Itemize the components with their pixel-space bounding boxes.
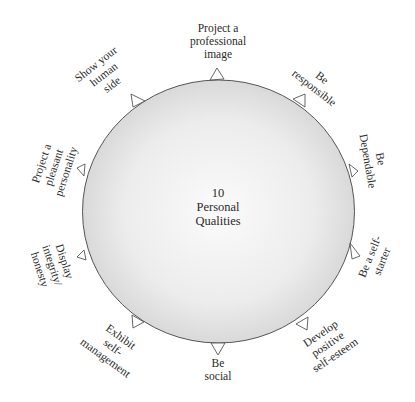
triangle-icon: [210, 68, 224, 80]
quality-professional-image: Project a professional image: [168, 22, 268, 61]
triangle-icon: [77, 164, 85, 176]
center-label: 10 Personal Qualities: [168, 186, 268, 228]
center-number: 10: [168, 186, 268, 200]
quality-social: Be social: [178, 357, 258, 383]
center-word-1: Personal: [168, 200, 268, 214]
triangle-icon: [350, 243, 360, 259]
triangle-icon: [349, 164, 358, 177]
triangle-icon: [77, 250, 86, 260]
center-word-2: Qualities: [168, 214, 268, 228]
triangle-icon: [211, 343, 225, 355]
